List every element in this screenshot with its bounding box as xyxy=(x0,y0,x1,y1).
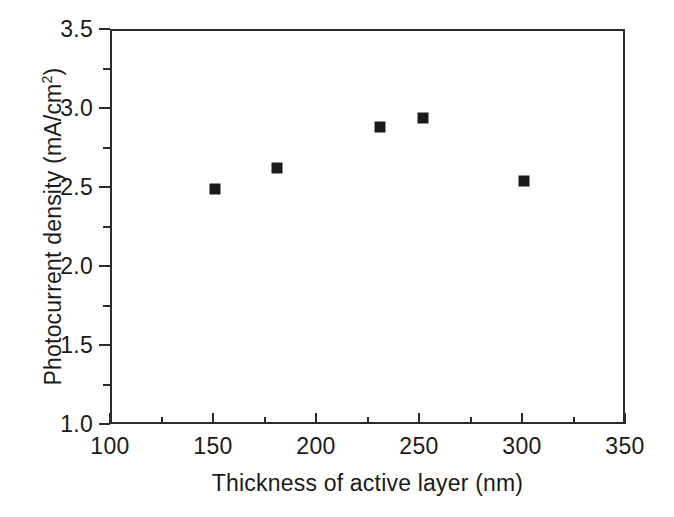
x-tick-major xyxy=(315,413,317,424)
x-tick-minor xyxy=(367,417,369,424)
data-point-marker xyxy=(271,163,282,174)
y-tick-minor xyxy=(103,384,110,386)
y-axis-title: Photocurrent density (mA/cm2) xyxy=(40,29,80,424)
y-axis-ticks xyxy=(110,29,111,424)
x-tick-minor xyxy=(470,417,472,424)
x-tick-major xyxy=(624,413,626,424)
x-tick-minor xyxy=(264,417,266,424)
y-tick-major xyxy=(99,28,110,30)
y-tick-major xyxy=(99,107,110,109)
x-tick-major xyxy=(521,413,523,424)
chart-page: 1.01.52.02.53.03.5 100150200250300350 Th… xyxy=(0,0,674,517)
x-tick-label: 200 xyxy=(296,433,335,460)
x-tick-minor xyxy=(161,417,163,424)
y-tick-minor xyxy=(103,305,110,307)
x-tick-label: 100 xyxy=(90,433,129,460)
y-tick-minor xyxy=(103,68,110,70)
y-axis-title-tail: ) xyxy=(40,68,66,76)
y-tick-minor xyxy=(103,226,110,228)
x-axis-title: Thickness of active layer (nm) xyxy=(110,470,625,497)
y-axis-title-superscript: 2 xyxy=(39,75,55,83)
y-axis-title-text: Photocurrent density (mA/cm xyxy=(40,84,66,386)
data-point-marker xyxy=(210,184,221,195)
x-tick-label: 150 xyxy=(193,433,232,460)
plot-area xyxy=(110,29,625,424)
y-tick-minor xyxy=(103,147,110,149)
x-tick-label: 300 xyxy=(502,433,541,460)
x-tick-major xyxy=(418,413,420,424)
x-tick-major xyxy=(212,413,214,424)
x-tick-major xyxy=(109,413,111,424)
x-axis-ticks xyxy=(110,424,625,425)
x-tick-label: 350 xyxy=(605,433,644,460)
data-point-marker xyxy=(519,176,530,187)
y-tick-major xyxy=(99,186,110,188)
x-axis-tick-labels: 100150200250300350 xyxy=(110,433,625,465)
data-point-marker xyxy=(374,122,385,133)
y-tick-major xyxy=(99,344,110,346)
data-point-marker xyxy=(418,112,429,123)
x-tick-minor xyxy=(573,417,575,424)
y-tick-major xyxy=(99,265,110,267)
x-tick-label: 250 xyxy=(399,433,438,460)
